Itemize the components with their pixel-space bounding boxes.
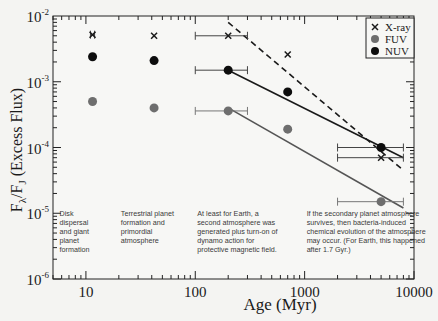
x-tick-label: 10 — [78, 284, 93, 300]
legend-nuv-label: NUV — [385, 45, 409, 57]
y-tick-labels: 10-210-310-410-510-6 — [27, 7, 50, 288]
y-tick-label: 10-5 — [27, 204, 50, 222]
y-tick-label: 10-4 — [27, 139, 50, 157]
legend-fuv-label: FUV — [385, 33, 407, 45]
legend: X-rayFUVNUV — [366, 18, 414, 58]
fuv-point — [377, 197, 386, 206]
y-axis-title: Fλ/FJ (Excess Flux) — [8, 88, 28, 212]
nuv-point — [150, 56, 159, 65]
nuv-point — [283, 87, 292, 96]
nuv-point — [377, 143, 386, 152]
y-tick-label: 10-3 — [27, 73, 50, 91]
legend-x-ray-label: X-ray — [385, 21, 411, 33]
y-tick-label: 10-2 — [27, 7, 50, 25]
fuv-point — [224, 106, 233, 115]
legend-nuv-marker — [371, 47, 379, 55]
nuv-point — [224, 66, 233, 75]
x-axis-title: Age (Myr) — [243, 295, 316, 314]
x-tick-label: 100 — [184, 284, 207, 300]
y-tick-label: 10-6 — [27, 270, 50, 288]
chart: Diskdispersaland giantplanetformationTer… — [0, 0, 438, 321]
y-axis-title-text: Fλ/FJ (Excess Flux) — [8, 88, 28, 212]
fuv-point — [283, 125, 292, 134]
nuv-point — [88, 52, 97, 61]
x-tick-label: 10000 — [395, 284, 433, 300]
legend-fuv-marker — [371, 35, 379, 43]
fuv-point — [150, 103, 159, 112]
fuv-point — [88, 97, 97, 106]
